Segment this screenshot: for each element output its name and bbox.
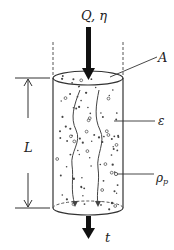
- particle: [69, 128, 71, 130]
- particle: [93, 134, 95, 136]
- outflow-arrow-head: [82, 228, 95, 239]
- particle: [78, 106, 80, 108]
- particle: [84, 203, 86, 205]
- particle: [60, 174, 62, 176]
- particle: [85, 92, 87, 94]
- particle: [69, 154, 71, 156]
- particle: [104, 163, 107, 166]
- particle: [100, 204, 102, 206]
- particle-density-subscript: p: [163, 177, 168, 186]
- particle: [117, 136, 119, 138]
- particle: [80, 79, 83, 82]
- particle: [61, 194, 63, 196]
- particle: [113, 190, 115, 192]
- particle: [75, 108, 77, 110]
- length-label: L: [23, 140, 33, 155]
- particle: [107, 97, 110, 100]
- particle: [56, 158, 59, 161]
- particle: [89, 113, 91, 115]
- particle: [80, 100, 82, 102]
- particle: [69, 93, 71, 95]
- flow-path-right: [96, 90, 102, 205]
- particle: [101, 189, 104, 192]
- particle: [59, 130, 61, 132]
- particle: [115, 144, 118, 147]
- particle: [79, 138, 81, 140]
- particle: [114, 205, 117, 208]
- particles: [56, 75, 120, 210]
- particle: [66, 198, 68, 200]
- particle: [90, 165, 92, 167]
- particle: [82, 142, 84, 144]
- particle: [77, 150, 79, 152]
- particle: [79, 154, 80, 155]
- particle: [80, 186, 82, 188]
- particle: [111, 202, 113, 204]
- particle: [71, 82, 73, 84]
- particle: [87, 107, 89, 109]
- particle: [117, 184, 119, 186]
- particle: [61, 116, 63, 118]
- particle: [102, 116, 104, 118]
- time-label: t: [105, 230, 111, 245]
- particle: [60, 100, 61, 101]
- particle: [85, 130, 88, 133]
- particle: [83, 187, 85, 189]
- particle: [86, 150, 89, 153]
- particle: [111, 154, 113, 156]
- particle: [107, 134, 110, 137]
- particle: [61, 78, 63, 80]
- packed-column-diagram: Q, η A ε ρp L t: [0, 0, 174, 250]
- particle: [111, 138, 113, 140]
- particle: [112, 146, 114, 148]
- particle: [82, 195, 83, 196]
- particle: [98, 136, 100, 138]
- leader-area: [110, 57, 157, 77]
- particle: [72, 78, 74, 80]
- particle: [110, 171, 113, 174]
- particle: [103, 136, 105, 138]
- inflow-arrow-head: [82, 68, 95, 80]
- particle: [79, 86, 80, 87]
- inflow-arrow-shaft: [86, 27, 91, 69]
- outflow-arrow-shaft: [86, 216, 91, 230]
- particle: [59, 137, 61, 139]
- particle: [81, 177, 83, 179]
- particle: [77, 96, 79, 98]
- particle: [108, 208, 110, 210]
- particle: [73, 178, 75, 180]
- particle: [70, 135, 73, 138]
- particle: [103, 180, 105, 182]
- porosity-label: ε: [158, 114, 164, 128]
- particle: [113, 135, 115, 137]
- particle: [64, 97, 67, 100]
- particle: [100, 112, 102, 114]
- particle: [89, 157, 90, 158]
- flow-path-right-arrowhead: [95, 201, 101, 207]
- cylinder-bottom-front: [53, 208, 123, 215]
- particle: [95, 87, 97, 89]
- particle: [115, 119, 117, 121]
- particle: [112, 89, 114, 91]
- particle: [73, 140, 76, 143]
- particle: [116, 193, 117, 194]
- particle: [105, 130, 108, 133]
- particle: [101, 141, 103, 143]
- particle: [65, 126, 67, 128]
- particle: [91, 78, 93, 80]
- flow-rate-viscosity-label: Q, η: [81, 8, 107, 23]
- particle: [112, 164, 114, 166]
- particle: [73, 107, 75, 109]
- particle: [109, 95, 110, 96]
- particle: [116, 112, 118, 114]
- particle: [113, 148, 115, 150]
- particle: [62, 75, 64, 77]
- particle-density-label: ρp: [155, 171, 168, 186]
- particle-density-symbol: ρ: [155, 171, 163, 185]
- particle: [91, 141, 92, 142]
- particle: [116, 150, 118, 152]
- particle: [99, 164, 101, 166]
- particle: [66, 166, 68, 168]
- area-label: A: [157, 50, 167, 65]
- particle: [66, 140, 68, 142]
